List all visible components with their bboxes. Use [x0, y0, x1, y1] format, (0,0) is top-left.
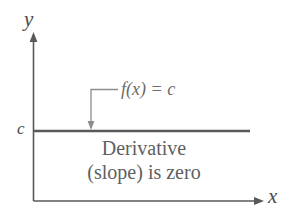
y-axis-label: y [24, 9, 33, 30]
callout-arrowhead-icon [88, 121, 95, 130]
annotation-line-2: (slope) is zero [44, 161, 244, 185]
annotation-line-1: Derivative [44, 137, 244, 161]
c-value-axis-label: c [17, 120, 25, 137]
function-equation-label: f(x) = c [121, 80, 175, 98]
x-axis-label: x [268, 186, 277, 207]
y-axis-arrowhead-icon [30, 32, 38, 42]
callout-leader-line [91, 90, 118, 123]
derivative-annotation: Derivative (slope) is zero [44, 137, 244, 184]
x-axis-arrowhead-icon [254, 197, 264, 205]
constant-function-derivative-figure: y x c f(x) = c Derivative (slope) is zer… [0, 0, 288, 213]
